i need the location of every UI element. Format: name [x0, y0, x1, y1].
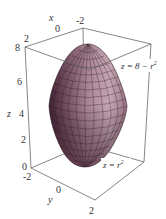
top-surface-equation: z = 8 − r [120, 61, 154, 71]
y-axis-labels: -2 0 y 2 [23, 171, 94, 216]
x-axis-label: x [48, 12, 54, 23]
bottom-surface-annotation: z = r2 [101, 158, 131, 171]
x-tick-0: 0 [55, 23, 60, 34]
z-tick-2: 2 [21, 134, 26, 145]
x-tick-2: 2 [24, 33, 29, 44]
svg-text:z = 8 − r2: z = 8 − r2 [120, 60, 157, 71]
z-tick-8: 8 [15, 42, 20, 53]
top-surface-annotation: z = 8 − r2 [119, 59, 162, 72]
y-tick-neg2: -2 [23, 171, 31, 182]
z-tick-4: 4 [19, 108, 24, 119]
z-axis-labels: 8 6 z 4 2 0 [6, 42, 27, 172]
top-surface-exponent: 2 [154, 60, 157, 66]
z-tick-6: 6 [17, 76, 22, 87]
bottom-surface-equation: z = r [102, 160, 121, 170]
z-axis-label: z [6, 108, 11, 119]
plot-canvas: x 0 -2 2 8 6 z 4 2 0 -2 0 y 2 z = 8 − r2… [0, 0, 166, 219]
svg-text:z = r2: z = r2 [102, 159, 124, 170]
3d-plot-figure: x 0 -2 2 8 6 z 4 2 0 -2 0 y 2 z = 8 − r2… [0, 0, 166, 219]
x-axis-labels: x 0 -2 2 [24, 12, 84, 44]
y-tick-2: 2 [89, 205, 94, 216]
bottom-surface-exponent: 2 [121, 159, 124, 165]
y-axis-label: y [47, 194, 53, 205]
y-tick-0: 0 [56, 184, 61, 195]
x-tick-neg2: -2 [76, 15, 84, 26]
